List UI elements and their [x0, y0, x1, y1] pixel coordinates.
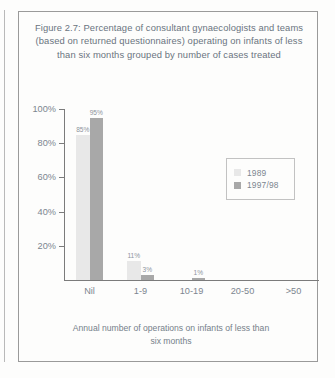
figure-title: Figure 2.7: Percentage of consultant gyn…: [29, 21, 309, 61]
page-margin-rule: [4, 10, 5, 362]
figure-box: Figure 2.7: Percentage of consultant gyn…: [18, 11, 318, 362]
bar-value-label: 85%: [76, 126, 89, 133]
x-axis-caption: Annual number of operations on infants o…: [51, 322, 291, 347]
y-axis-tick: [59, 177, 64, 178]
y-axis-line: [64, 109, 65, 280]
x-axis-caption-line-2: six months: [51, 335, 291, 348]
x-axis-label-50: >50: [286, 286, 302, 296]
y-axis-tick-label: 60%: [38, 172, 56, 182]
y-axis-tick-label: 80%: [38, 138, 56, 148]
legend-swatch-icon: [234, 182, 241, 189]
bar-Nil-199798: [90, 118, 104, 280]
bar-value-label: 3%: [142, 266, 152, 273]
bar-value-label: 95%: [90, 109, 103, 116]
y-axis-tick-label: 100%: [33, 104, 57, 114]
chart-legend: 19891997/98: [226, 158, 295, 200]
y-axis-tick: [59, 212, 64, 213]
x-axis-label-1019: 10-19: [180, 286, 204, 296]
bar-19-199798: [141, 275, 155, 280]
bar-1019-199798: [192, 278, 206, 280]
y-axis-tick-label: 20%: [38, 241, 56, 251]
x-axis-caption-line-1: Annual number of operations on infants o…: [51, 322, 291, 335]
bar-value-label: 1%: [193, 269, 203, 276]
legend-item-199798: 1997/98: [234, 180, 287, 190]
x-axis-label-19: 1-9: [134, 286, 147, 296]
figure-title-line-3: than six months grouped by number of cas…: [29, 48, 309, 61]
legend-swatch-icon: [234, 169, 241, 176]
figure-title-line-1: Figure 2.7: Percentage of consultant gyn…: [29, 21, 309, 34]
x-axis-label-2050: 20-50: [231, 286, 255, 296]
y-axis-tick: [59, 246, 64, 247]
bar-value-label: 11%: [127, 252, 140, 259]
figure-title-line-2: (based on returned questionnaires) opera…: [29, 34, 309, 47]
x-axis-label-Nil: Nil: [84, 286, 95, 296]
legend-label: 1989: [247, 168, 266, 178]
y-axis-tick: [59, 109, 64, 110]
legend-label: 1997/98: [247, 180, 279, 190]
bar-Nil-1989: [76, 135, 90, 280]
x-axis-line: [64, 280, 319, 281]
y-axis-tick-label: 40%: [38, 207, 56, 217]
y-axis-tick: [59, 143, 64, 144]
bar-19-1989: [127, 261, 141, 280]
legend-item-1989: 1989: [234, 168, 287, 178]
